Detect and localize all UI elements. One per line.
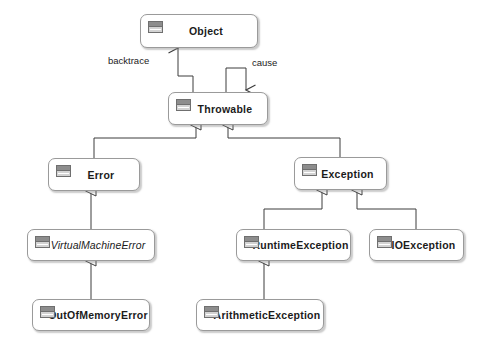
uml-class-icon	[302, 164, 317, 176]
uml-class-icon	[377, 236, 392, 248]
class-node-virtualmachineerror[interactable]: VirtualMachineError	[27, 229, 155, 261]
class-node-object[interactable]: Object	[140, 14, 258, 48]
edge-runtimeexception-exception	[264, 190, 322, 229]
uml-class-diagram-canvas: Object Throwable Error Exception Virtual…	[0, 0, 486, 354]
edge-throwable-object-backtrace	[178, 48, 193, 92]
edge-label-backtrace: backtrace	[108, 55, 149, 66]
edge-throwable-throwable-cause	[226, 68, 246, 92]
class-node-error[interactable]: Error	[48, 158, 140, 191]
uml-class-icon	[176, 99, 191, 111]
uml-class-icon	[204, 306, 219, 318]
uml-class-icon	[35, 236, 50, 248]
class-node-arithmeticexception[interactable]: ArithmeticException	[196, 299, 324, 331]
edge-label-cause: cause	[252, 57, 277, 68]
uml-class-icon	[148, 21, 163, 33]
uml-class-icon	[244, 236, 259, 248]
class-node-ioexception[interactable]: IOException	[369, 229, 464, 261]
class-node-runtimeexception[interactable]: RuntimeException	[236, 229, 351, 261]
edge-error-throwable	[94, 125, 196, 158]
class-node-throwable[interactable]: Throwable	[168, 92, 268, 125]
uml-class-icon	[40, 306, 55, 318]
edge-exception-throwable	[228, 125, 340, 157]
uml-class-icon	[56, 165, 71, 177]
edge-ioexception-exception	[357, 190, 416, 229]
class-node-outofmemoryerror[interactable]: OutOfMemoryError	[32, 299, 150, 331]
class-node-exception[interactable]: Exception	[294, 157, 387, 190]
